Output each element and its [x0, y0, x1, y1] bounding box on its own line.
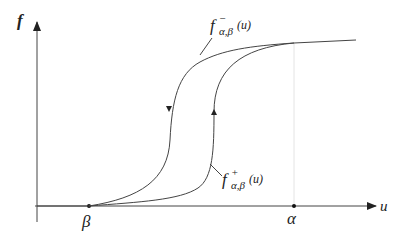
- svg-text:α,β: α,β: [219, 25, 234, 37]
- saturation-line: [294, 40, 356, 43]
- up-arrow-icon: [211, 109, 217, 115]
- hysteresis-diagram: f u β α f − α,β (u) f + α,β (u): [0, 0, 393, 242]
- lower-curve-label: f + α,β (u): [222, 166, 263, 191]
- svg-text:f: f: [210, 16, 217, 35]
- svg-text:α,β: α,β: [231, 179, 246, 191]
- beta-label: β: [81, 212, 91, 231]
- upper-curve: [89, 43, 294, 206]
- svg-text:−: −: [219, 12, 226, 24]
- down-arrow-icon: [166, 106, 172, 112]
- svg-text:(u): (u): [237, 18, 251, 32]
- upper-curve-label: f − α,β (u): [210, 12, 251, 37]
- svg-text:f: f: [222, 170, 229, 189]
- alpha-point: [292, 204, 296, 208]
- x-axis-label: u: [380, 198, 388, 214]
- svg-text:(u): (u): [249, 172, 263, 186]
- alpha-label: α: [287, 209, 297, 228]
- lower-leader: [210, 164, 222, 176]
- svg-text:+: +: [231, 166, 238, 178]
- y-axis-label: f: [17, 11, 25, 30]
- upper-leader: [200, 38, 212, 55]
